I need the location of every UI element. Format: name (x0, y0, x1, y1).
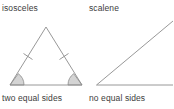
isosceles-diagram (0, 16, 86, 90)
scalene-diagram (87, 16, 173, 90)
equal-side-tick-left (24, 54, 33, 60)
equal-base-angle-arc-left (10, 74, 24, 85)
triangle-figure: isosceles two equal sides scalene (0, 0, 173, 109)
equal-side-tick-right (60, 54, 69, 60)
equal-base-angle-arc-right (68, 74, 82, 85)
scalene-hypotenuse (97, 21, 174, 85)
scalene-title: scalene (89, 3, 119, 13)
panel-scalene: scalene no equal sides (87, 0, 173, 109)
scalene-caption: no equal sides (89, 93, 145, 103)
isosceles-title: isosceles (2, 3, 38, 13)
panel-isosceles: isosceles two equal sides (0, 0, 86, 109)
isosceles-caption: two equal sides (2, 93, 62, 103)
